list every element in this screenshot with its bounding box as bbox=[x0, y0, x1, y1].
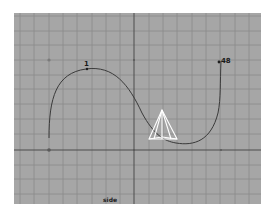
curve-end-label: 48 bbox=[221, 57, 231, 65]
camera-label: side bbox=[103, 196, 117, 203]
curve-start-cv bbox=[86, 68, 88, 70]
side-viewport[interactable]: 1 48 side bbox=[14, 13, 261, 204]
curve-end-cv bbox=[218, 61, 221, 64]
viewport-canvas[interactable] bbox=[14, 13, 261, 204]
curve-start-label: 1 bbox=[84, 60, 89, 68]
nurbs-curve bbox=[49, 61, 221, 144]
